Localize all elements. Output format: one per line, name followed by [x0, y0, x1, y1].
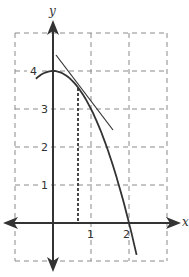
svg-text:3: 3 — [41, 103, 48, 116]
svg-text:1: 1 — [41, 179, 48, 192]
svg-text:2: 2 — [41, 141, 48, 154]
svg-text:4: 4 — [30, 65, 37, 78]
svg-text:1: 1 — [87, 228, 94, 241]
tangent-line — [56, 55, 113, 130]
chart: 4 3 2 1 1 2 y x — [0, 0, 189, 277]
svg-text:x: x — [182, 215, 189, 229]
svg-text:2: 2 — [123, 228, 130, 241]
svg-text:y: y — [48, 4, 56, 18]
